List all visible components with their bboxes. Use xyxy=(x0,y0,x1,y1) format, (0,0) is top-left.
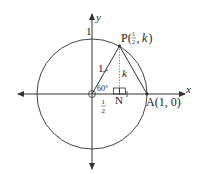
P-k: k xyxy=(142,31,148,45)
base-frac-numerator: 1 xyxy=(102,98,106,106)
height-k-label: k xyxy=(122,67,128,79)
unit-circle-diagram: y x 1 P( 1 2 , k ) 1 k 60° 1 2 N A(1, 0) xyxy=(0,0,199,174)
P-close-paren: ) xyxy=(149,31,153,45)
point-P xyxy=(118,45,121,48)
P-comma: , xyxy=(137,31,140,45)
base-frac-denominator: 2 xyxy=(102,107,106,115)
y-axis-label: y xyxy=(95,11,101,23)
P-frac-numerator: 1 xyxy=(132,31,135,37)
P-frac-denominator: 2 xyxy=(132,39,135,45)
x-axis-label: x xyxy=(185,83,191,95)
point-A-label: A(1, 0) xyxy=(146,95,181,109)
hypotenuse-label: 1 xyxy=(98,62,104,74)
angle-label: 60° xyxy=(97,84,108,93)
y-intercept-label: 1 xyxy=(86,25,92,37)
point-N-label: N xyxy=(115,94,123,106)
point-P-label-prefix: P( xyxy=(121,31,132,45)
